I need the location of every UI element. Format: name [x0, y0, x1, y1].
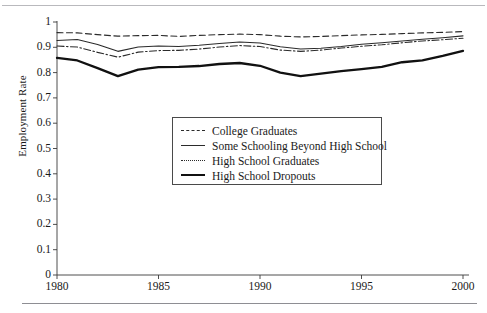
- legend-item-high-school-graduates: High School Graduates: [173, 153, 381, 168]
- legend-item-college-graduates: College Graduates: [173, 123, 381, 138]
- legend-label: High School Graduates: [212, 155, 319, 167]
- legend-swatch-dashdot-line: [181, 156, 205, 166]
- legend-item-high-school-dropouts: High School Dropouts: [173, 168, 381, 183]
- series-line-0: [57, 32, 463, 37]
- series-line-1: [57, 36, 463, 51]
- legend-swatch-solid-line: [181, 141, 205, 151]
- employment-rate-line-chart: Employment Rate 00.10.20.30.40.50.60.70.…: [0, 0, 487, 300]
- chart-legend: College Graduates Some Schooling Beyond …: [172, 117, 382, 185]
- legend-swatch-thick-line: [181, 171, 205, 181]
- legend-label: College Graduates: [212, 125, 297, 137]
- series-line-3: [57, 51, 463, 76]
- legend-swatch-dashed-line: [181, 126, 205, 136]
- legend-label: High School Dropouts: [212, 170, 316, 182]
- legend-item-some-schooling: Some Schooling Beyond High School: [173, 138, 381, 153]
- bottom-rule: [22, 303, 477, 304]
- legend-label: Some Schooling Beyond High School: [212, 140, 387, 152]
